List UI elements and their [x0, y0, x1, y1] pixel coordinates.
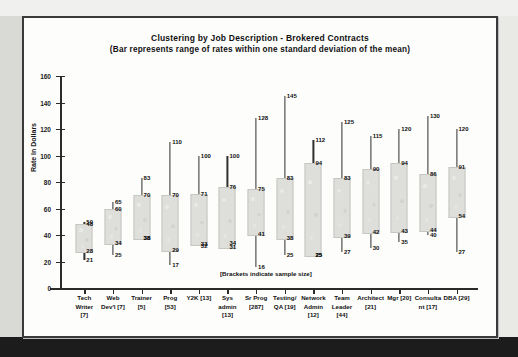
chart-sheet: Clustering by Job Description - Brokered…: [22, 16, 498, 338]
value-label: 91: [459, 164, 466, 170]
whisker-upper: [170, 142, 171, 195]
whisker-upper: [341, 122, 342, 178]
y-tick-label: 0: [47, 285, 51, 292]
whisker-upper: [198, 156, 199, 194]
x-category-label-line: DBA [29]: [434, 294, 480, 303]
x-category-label-line: [21]: [348, 303, 394, 312]
range-bar[interactable]: [448, 167, 465, 218]
sample-size-footnote: [Brackets indicate sample size]: [220, 270, 312, 277]
value-label: 54: [459, 213, 466, 219]
whisker-upper: [112, 202, 113, 209]
plot-area: Rate In Dollars 020406080100120140160 50…: [60, 76, 478, 288]
y-tick-label: 60: [44, 205, 51, 212]
y-tick-label: 160: [40, 73, 51, 80]
whisker-upper: [427, 116, 428, 174]
scanned-page-background: Clustering by Job Description - Brokered…: [0, 0, 518, 357]
y-tick-label: 120: [40, 126, 51, 133]
whisker-lower: [256, 234, 257, 267]
page-bottom-shadow: [0, 337, 518, 357]
chart-title-block: Clustering by Job Description - Brokered…: [24, 32, 496, 56]
whisker-upper: [456, 129, 457, 167]
y-tick-label: 80: [44, 179, 51, 186]
category-group[interactable]: 120915427: [432, 76, 482, 288]
value-label: 27: [459, 249, 466, 255]
whisker-upper: [399, 129, 400, 163]
whisker-lower: [284, 238, 285, 255]
y-tick-label: 40: [44, 232, 51, 239]
whisker-lower: [370, 232, 371, 248]
whisker-upper: [227, 156, 228, 188]
y-tick-label: 100: [40, 152, 51, 159]
whisker-upper: [313, 140, 314, 164]
chart-title: Clustering by Job Description - Brokered…: [24, 32, 496, 44]
x-category-label-line: [44]: [319, 311, 365, 320]
y-tick-label: 140: [40, 99, 51, 106]
chart-subtitle: (Bar represents range of rates within on…: [24, 44, 496, 56]
whisker-upper: [284, 96, 285, 178]
x-category-label-line: [53]: [147, 303, 193, 312]
x-category-label: DBA [29]: [434, 294, 480, 303]
whisker-lower: [170, 250, 171, 266]
whisker-lower: [456, 216, 457, 252]
x-category-label-line: [13]: [204, 311, 250, 320]
whisker-lower: [341, 236, 342, 252]
whisker-upper: [256, 118, 257, 188]
x-category-label-line: nt [17]: [405, 303, 451, 312]
page-top-margin: [0, 0, 518, 16]
x-category-label-line: [7]: [61, 311, 107, 320]
y-tick: [56, 288, 65, 289]
y-tick-label: 20: [44, 258, 51, 265]
page-left-margin: [0, 0, 22, 357]
value-label: 120: [459, 126, 469, 132]
y-axis-title: Rate In Dollars: [30, 123, 37, 172]
whisker-upper: [370, 136, 371, 169]
whisker-upper: [141, 178, 142, 195]
